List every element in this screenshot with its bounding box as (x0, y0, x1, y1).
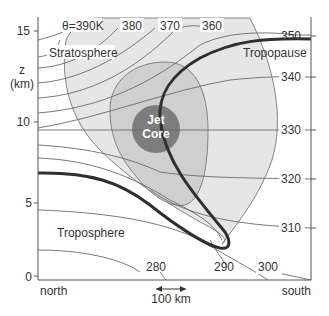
jet-core-label-line1: Jet (147, 113, 164, 127)
stratosphere-label: Stratosphere (49, 46, 118, 60)
isentrope-label-310: 310 (281, 221, 301, 235)
isentrope-label-300: 300 (258, 260, 278, 274)
x-axis-north-label: north (40, 284, 67, 298)
isentrope-label-350: 350 (281, 29, 301, 43)
y-axis-label-z: z (19, 63, 25, 77)
isentrope-label-370: 370 (160, 19, 180, 33)
y-axis-label-units: (km) (10, 77, 34, 91)
jet-core-label-line2: Core (142, 127, 170, 141)
scale-bar: 100 km (151, 286, 190, 306)
isentrope-280 (38, 250, 140, 272)
y-tick-10: 10 (17, 115, 31, 129)
isentrope-label-320: 320 (281, 172, 301, 186)
isentrope-label-280: 280 (146, 260, 166, 274)
x-axis-south-label: south (282, 284, 311, 298)
isentrope-label-340: 340 (281, 70, 301, 84)
right-ticks (311, 36, 316, 228)
isentrope-label-380: 380 (122, 19, 142, 33)
jet-stream-cross-section: 15 z (km) 10 5 0 θ=390K 380 370 360 Stra… (0, 0, 329, 316)
y-tick-5: 5 (25, 196, 32, 210)
troposphere-label: Troposphere (57, 226, 125, 240)
isentrope-label-330: 330 (281, 123, 301, 137)
tropopause-label: Tropopause (243, 46, 307, 60)
isentrope-label-360: 360 (202, 19, 222, 33)
y-ticks (34, 31, 38, 276)
isentrope-label-390: θ=390K (62, 19, 104, 33)
isentrope-label-290: 290 (214, 260, 234, 274)
scale-bar-label: 100 km (151, 292, 190, 306)
y-tick-15: 15 (17, 24, 31, 38)
isentrope-bottom (278, 273, 311, 280)
y-tick-0: 0 (25, 270, 32, 284)
